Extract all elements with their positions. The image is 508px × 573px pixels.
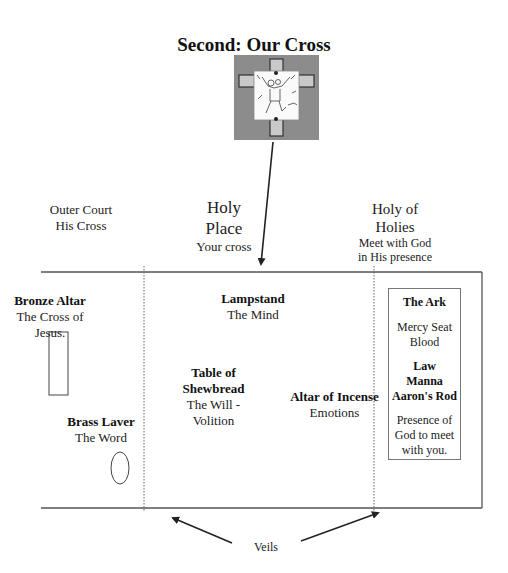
holy-of-holies-name-line2: Holies [345, 218, 445, 236]
outer-court-header: Outer Court His Cross [36, 202, 126, 234]
bronze-altar-name: Bronze Altar [0, 293, 100, 309]
shewbread-name-line2: Shewbread [166, 381, 261, 397]
ark-content-rod: Aaron's Rod [389, 389, 460, 404]
bronze-altar-shape [49, 332, 68, 395]
table-of-shewbread-label: Table of Shewbread The Will - Volition [166, 365, 261, 429]
presence-line2: God to meet [389, 428, 460, 443]
veil-arrow-right [301, 513, 378, 541]
ark-content: The Ark Mercy Seat Blood Law Manna Aaron… [389, 289, 460, 458]
outer-court-subtitle: His Cross [36, 218, 126, 234]
veils-label: Veils [236, 539, 296, 555]
holy-place-name-line1: Holy [184, 197, 264, 218]
ark-content-law: Law [389, 359, 460, 374]
holy-place-subtitle: Your cross [184, 239, 264, 255]
bronze-altar-label: Bronze Altar The Cross of Jesus. [0, 293, 100, 341]
shewbread-meaning: The Will - Volition [166, 397, 261, 429]
mercy-seat-line1: Mercy Seat [389, 320, 460, 335]
holy-of-holies-subtitle-line2: in His presence [345, 250, 445, 264]
ark-content-manna: Manna [389, 374, 460, 389]
holy-of-holies-subtitle-line1: Meet with God [345, 236, 445, 250]
veil-arrow-left [173, 518, 232, 543]
ark-title: The Ark [389, 295, 460, 310]
lampstand-meaning: The Mind [213, 307, 293, 323]
ark-box: The Ark Mercy Seat Blood Law Manna Aaron… [388, 288, 461, 460]
brass-laver-name: Brass Laver [66, 414, 136, 430]
brass-laver-shape [111, 452, 129, 484]
holy-of-holies-name-line1: Holy of [345, 200, 445, 218]
brass-laver-label: Brass Laver The Word [66, 414, 136, 446]
altar-of-incense-label: Altar of Incense Emotions [282, 389, 387, 421]
bronze-altar-meaning: The Cross of Jesus. [0, 309, 100, 341]
holy-of-holies-header: Holy of Holies Meet with God in His pres… [345, 200, 445, 264]
altar-of-incense-meaning: Emotions [282, 405, 387, 421]
mercy-seat-line2: Blood [389, 335, 460, 350]
shewbread-name-line1: Table of [166, 365, 261, 381]
holy-place-header: Holy Place Your cross [184, 197, 264, 255]
brass-laver-meaning: The Word [66, 430, 136, 446]
holy-place-name-line2: Place [184, 218, 264, 239]
floorplan-lines [0, 0, 508, 573]
outer-court-name: Outer Court [36, 202, 126, 218]
altar-of-incense-name: Altar of Incense [282, 389, 387, 405]
presence-line1: Presence of [389, 413, 460, 428]
lampstand-name: Lampstand [213, 291, 293, 307]
lampstand-label: Lampstand The Mind [213, 291, 293, 323]
presence-line3: with you. [389, 443, 460, 458]
